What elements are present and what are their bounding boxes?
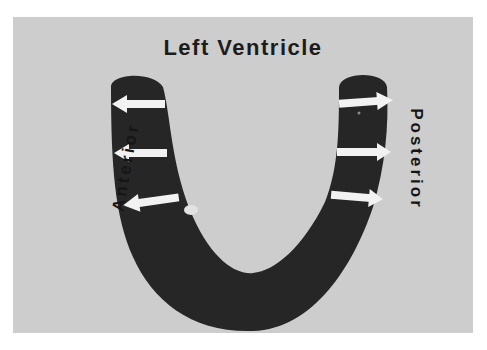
posterior-label: Posterior [406,108,426,210]
diagram-panel: Left Ventricle [13,17,473,333]
left-ventricle-shape [13,17,473,333]
artifact-spot [184,205,198,215]
artifact-dot [358,112,361,115]
